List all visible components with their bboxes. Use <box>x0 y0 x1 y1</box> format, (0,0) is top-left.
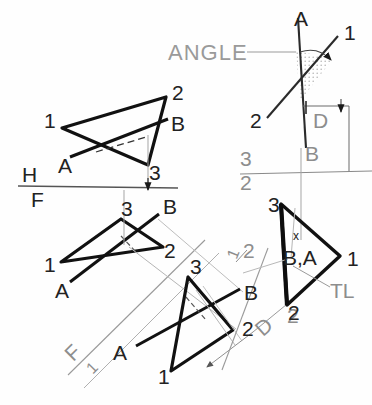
top-view-label-A: A <box>58 155 72 176</box>
drawing-sheet: ANGLE A 1 2 B D 3 2 1 2 3 A B H F 1 3 2 … <box>0 0 372 405</box>
aux1-label-1: 1 <box>158 366 170 387</box>
aux2-label-1: 1 <box>347 248 359 269</box>
front-view-label-B: B <box>163 196 177 217</box>
aux1-label-A: A <box>113 342 127 363</box>
front-view-label-A: A <box>55 280 69 301</box>
aux2-label-3: 3 <box>268 194 280 215</box>
fold-label-f: F <box>31 189 44 210</box>
front-view-label-2: 2 <box>164 240 176 261</box>
fold-line-f-1 <box>68 240 205 375</box>
fold-line-3-2 <box>240 171 372 174</box>
front-view-triangle <box>61 219 163 262</box>
top-view-label-3: 3 <box>149 162 161 183</box>
aux2-label-BA: B,A <box>283 247 317 268</box>
fold-label-h: H <box>22 164 37 185</box>
aux2-label-2: 2 <box>288 302 300 323</box>
aux1-label-3: 3 <box>190 256 202 277</box>
aux1-label-B: B <box>244 282 258 303</box>
front-view-label-1: 1 <box>44 254 56 275</box>
top-view-label-B: B <box>171 113 185 134</box>
angle-view-label-A: A <box>294 8 308 29</box>
front-view-label-3: 3 <box>121 198 133 219</box>
fold-label-2: 2 <box>240 172 252 193</box>
aux1-construction-a <box>196 290 235 345</box>
top-view-label-2: 2 <box>172 82 184 103</box>
angle-callout-label: ANGLE <box>168 42 248 64</box>
fold-label-3: 3 <box>240 148 252 169</box>
aux2-fold-mark-2: 2 <box>243 240 255 261</box>
angle-view-label-2: 2 <box>250 110 262 131</box>
angle-view-label-B: B <box>305 143 319 164</box>
top-view-label-1: 1 <box>44 110 56 131</box>
aux2-label-x: x <box>293 230 299 242</box>
fold-line-2-oblique <box>222 248 268 370</box>
angle-view-label-1: 1 <box>344 22 356 43</box>
dimension-d-label: D <box>313 110 328 131</box>
true-length-label: TL <box>330 280 355 301</box>
